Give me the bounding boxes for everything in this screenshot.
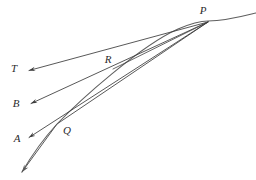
point-label-B: B: [13, 98, 20, 109]
chord-P-R: [113, 22, 208, 69]
point-label-T: T: [11, 63, 17, 74]
secant-line-through-Q: [22, 22, 208, 172]
point-label-P: P: [200, 5, 207, 16]
ray-line-to-A: [29, 22, 208, 138]
figure-canvas: [0, 0, 256, 180]
point-label-Q: Q: [63, 125, 71, 136]
point-label-R: R: [105, 54, 112, 65]
geometry-figure: P R Q T B A: [0, 0, 256, 180]
curve-path: [22, 13, 256, 172]
point-label-A: A: [14, 133, 21, 144]
